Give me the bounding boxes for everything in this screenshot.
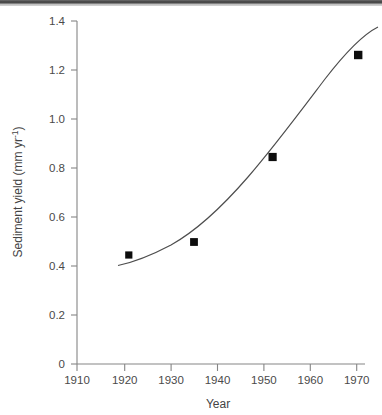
x-tick-label: 1950 xyxy=(251,374,277,386)
x-tick-label: 1960 xyxy=(298,374,324,386)
y-tick-label: 0.6 xyxy=(49,211,65,223)
y-tick-label: 0.2 xyxy=(49,309,65,321)
x-tick-label: 1910 xyxy=(64,374,90,386)
chart-canvas: 0 0.2 0.4 0.6 0.8 1.0 1.2 1.4 1910 1920 … xyxy=(0,0,382,415)
x-tick-label: 1920 xyxy=(112,374,138,386)
y-tick-label: 1.2 xyxy=(49,64,65,76)
y-axis-title-close: ) xyxy=(11,127,25,131)
x-tick-label: 1970 xyxy=(344,374,370,386)
trend-curve xyxy=(118,27,378,266)
data-point-marker[interactable] xyxy=(190,238,198,246)
y-axis-tick-labels: 0 0.2 0.4 0.6 0.8 1.0 1.2 1.4 xyxy=(49,15,66,370)
y-axis-title: Sediment yield (mm yr-1) xyxy=(10,127,25,258)
y-tick-label: 0.4 xyxy=(49,260,66,272)
y-tick-label: 1.4 xyxy=(49,15,66,27)
y-tick-label: 0.8 xyxy=(49,162,65,174)
x-axis-tick-labels: 1910 1920 1930 1940 1950 1960 1970 xyxy=(64,374,369,386)
sediment-yield-chart: 0 0.2 0.4 0.6 0.8 1.0 1.2 1.4 1910 1920 … xyxy=(0,0,382,415)
data-point-markers xyxy=(125,51,362,259)
y-axis-ticks xyxy=(71,21,77,364)
data-point-marker[interactable] xyxy=(269,153,277,161)
x-tick-label: 1940 xyxy=(205,374,231,386)
x-axis-title: Year xyxy=(206,397,230,411)
data-point-marker[interactable] xyxy=(125,251,132,258)
x-tick-label: 1930 xyxy=(158,374,184,386)
y-tick-label: 0 xyxy=(59,358,65,370)
y-axis-title-main: Sediment yield (mm yr xyxy=(11,138,25,257)
data-point-marker[interactable] xyxy=(354,51,362,59)
x-axis-ticks xyxy=(77,364,357,371)
y-tick-label: 1.0 xyxy=(49,113,65,125)
